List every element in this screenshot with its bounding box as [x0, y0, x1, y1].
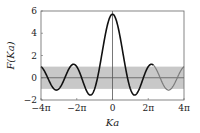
y-tick-label: 6: [31, 6, 37, 16]
y-tick-label: −2: [24, 95, 37, 105]
y-axis-label: F(Ka): [5, 41, 16, 70]
ticks: −4π−2π02π4π−20246: [24, 6, 190, 113]
x-tick-label: 4π: [178, 103, 190, 113]
x-tick-label: 0: [110, 103, 116, 113]
x-tick-label: 2π: [142, 103, 154, 113]
y-tick-label: 0: [31, 73, 37, 83]
y-tick-label: 2: [31, 51, 37, 61]
x-axis-label: Ka: [105, 117, 119, 128]
x-tick-label: −2π: [67, 103, 86, 113]
chart: −4π−2π02π4π−20246 Ka F(Ka): [0, 0, 200, 133]
y-tick-label: 4: [31, 28, 37, 38]
